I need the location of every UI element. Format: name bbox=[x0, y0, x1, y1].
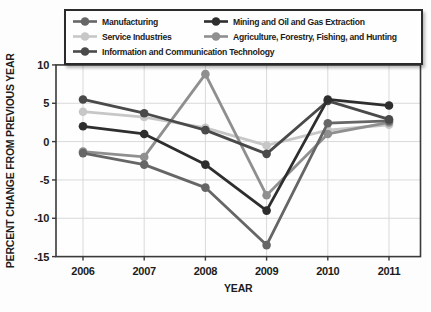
x-tick-label: 2009 bbox=[255, 265, 278, 277]
series-point bbox=[140, 109, 149, 118]
x-tick-label: 2006 bbox=[71, 265, 94, 277]
legend-marker-icon bbox=[72, 46, 98, 57]
series-point bbox=[79, 107, 88, 116]
y-tick-label: 0 bbox=[43, 136, 49, 148]
series-point bbox=[385, 101, 394, 110]
legend-item: Manufacturing bbox=[72, 16, 203, 27]
x-tick-label: 2010 bbox=[316, 265, 339, 277]
series-point bbox=[201, 70, 210, 79]
legend-marker-icon bbox=[72, 16, 98, 27]
legend-label: Manufacturing bbox=[102, 17, 158, 27]
y-tick-label: -15 bbox=[34, 251, 49, 263]
legend-marker-icon bbox=[203, 16, 229, 27]
y-tick-label: -10 bbox=[34, 212, 49, 224]
series-point bbox=[79, 149, 88, 158]
x-axis-title: YEAR bbox=[224, 282, 253, 294]
series-point bbox=[262, 141, 271, 150]
line-chart-figure: 1050-5-10-15200620072008200920102011YEAR… bbox=[0, 0, 431, 312]
chart-legend: ManufacturingMining and Oil and Gas Extr… bbox=[64, 9, 423, 65]
legend-marker-icon bbox=[72, 31, 98, 42]
legend-label: Agriculture, Forestry, Fishing, and Hunt… bbox=[233, 32, 397, 42]
series-point bbox=[324, 119, 333, 128]
series-point bbox=[79, 122, 88, 131]
series-point bbox=[201, 183, 210, 192]
series-point bbox=[201, 160, 210, 169]
series-point bbox=[140, 130, 149, 139]
series-point bbox=[385, 115, 394, 124]
legend-label: Information and Communication Technology bbox=[102, 47, 274, 57]
legend-item: Service Industries bbox=[72, 31, 203, 42]
series-point bbox=[140, 160, 149, 169]
y-tick-label: 5 bbox=[43, 97, 49, 109]
x-tick-label: 2011 bbox=[378, 265, 401, 277]
series-point bbox=[201, 126, 210, 135]
series-point bbox=[324, 95, 333, 104]
plot-background bbox=[56, 65, 421, 257]
x-tick-label: 2007 bbox=[133, 265, 156, 277]
series-point bbox=[262, 191, 271, 200]
x-tick-label: 2008 bbox=[194, 265, 217, 277]
series-point bbox=[79, 95, 88, 104]
y-axis-title: PERCENT CHANGE FROM PREVIOUS YEAR bbox=[4, 53, 16, 269]
series-point bbox=[140, 153, 149, 162]
legend-label: Mining and Oil and Gas Extraction bbox=[233, 17, 365, 27]
series-point bbox=[262, 241, 271, 250]
series-point bbox=[262, 206, 271, 215]
legend-item: Mining and Oil and Gas Extraction bbox=[203, 16, 415, 27]
legend-marker-icon bbox=[203, 31, 229, 42]
y-tick-label: 10 bbox=[37, 59, 49, 71]
legend-item: Agriculture, Forestry, Fishing, and Hunt… bbox=[203, 31, 415, 42]
legend-label: Service Industries bbox=[102, 32, 172, 42]
legend-item: Information and Communication Technology bbox=[72, 46, 203, 57]
series-point bbox=[262, 150, 271, 159]
y-tick-label: -5 bbox=[40, 174, 49, 186]
